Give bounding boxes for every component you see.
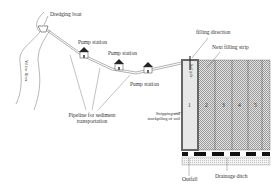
pump-station-2-icon [114,59,124,70]
label-dredging-boat: Dredging boat [50,12,82,18]
strip-4: 4 [238,103,241,109]
label-pipeline: Pipeline for sediment transportation [62,113,122,124]
strip-5: 5 [254,103,257,109]
filling-field [182,60,270,165]
label-outfall: Outfall [182,177,198,183]
label-pump-station-2: Pump station [108,51,137,57]
dredging-boat-leader [44,16,48,25]
pump-station-1-icon [79,47,89,58]
label-next-filling-strip: Next filling strip [212,45,249,51]
label-pump-station-1: Pump station [78,40,107,46]
label-soil-pile: Soil pile [189,64,193,77]
label-drainage-ditch: Drainage ditch [215,174,248,180]
strip-3: 3 [222,103,225,109]
label-stripping: Stripping and stockpiling of soil [140,112,180,121]
strip-2: 2 [205,103,208,109]
label-river: Yellow River [24,60,28,81]
dredging-diagram [0,0,276,193]
label-pump-station-3: Pump station [130,82,159,88]
label-filling-direction: filling direction [196,30,230,36]
strip-1: 1 [188,103,191,109]
pump-station-3-icon [143,62,153,73]
